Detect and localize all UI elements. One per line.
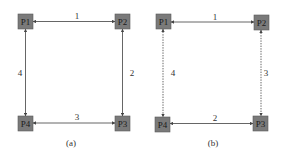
- edge-label-b-4: 4: [171, 68, 176, 78]
- svg-text:P1: P1: [159, 17, 169, 27]
- caption-a: (a): [66, 138, 76, 148]
- panel-a: 1 2 3 4 P1 P2 P3 P4 (a): [18, 11, 135, 148]
- panel-b: 1 2 3 4 P1 P2 P3 P4 (b): [155, 12, 269, 148]
- node-a-p2: P2: [115, 14, 130, 29]
- node-b-p1: P1: [156, 14, 171, 29]
- svg-text:P3: P3: [256, 119, 266, 129]
- svg-text:P2: P2: [118, 17, 128, 27]
- network-diagram: 1 2 3 4 P1 P2 P3 P4 (a) 1 2 3: [0, 0, 281, 158]
- edge-label-a-4: 4: [18, 68, 23, 78]
- edge-label-a-3: 3: [75, 112, 80, 122]
- svg-text:P4: P4: [21, 119, 31, 129]
- svg-text:P2: P2: [257, 18, 267, 28]
- node-b-p2: P2: [254, 15, 269, 30]
- node-b-p4: P4: [155, 117, 170, 132]
- edge-label-a-2: 2: [130, 68, 135, 78]
- edge-label-a-1: 1: [75, 11, 80, 21]
- node-a-p4: P4: [18, 116, 33, 131]
- svg-text:P3: P3: [118, 119, 128, 129]
- node-a-p3: P3: [115, 116, 130, 131]
- svg-text:P1: P1: [21, 17, 31, 27]
- node-b-p3: P3: [253, 116, 268, 131]
- edge-label-b-3: 3: [264, 68, 269, 78]
- node-a-p1: P1: [18, 14, 33, 29]
- edge-label-b-2: 2: [213, 113, 218, 123]
- caption-b: (b): [208, 138, 219, 148]
- edge-label-b-1: 1: [213, 12, 218, 22]
- svg-text:P4: P4: [158, 120, 168, 130]
